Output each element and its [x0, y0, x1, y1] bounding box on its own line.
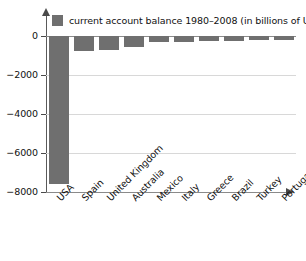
gridline--6000: [46, 153, 296, 154]
y-tick--6000: [41, 153, 46, 154]
legend-swatch-icon: [52, 15, 63, 26]
legend: current account balance 1980–2008 (in bi…: [52, 15, 306, 26]
bar-usa: [49, 36, 69, 184]
y-axis-arrow-icon: [42, 8, 50, 16]
bar-mexico: [149, 36, 169, 42]
bar-united-kingdom: [99, 36, 119, 50]
gridline--2000: [46, 75, 296, 76]
bar-spain: [74, 36, 94, 51]
y-tick-label--8000: −8000: [6, 187, 38, 197]
bar-portugal: [274, 36, 294, 40]
y-tick-label--2000: −2000: [6, 70, 38, 80]
bar-turkey: [249, 36, 269, 40]
y-tick-label-0: 0: [32, 31, 38, 41]
bar-brazil: [224, 36, 244, 41]
y-tick-0: [41, 36, 46, 37]
plot-area: [46, 36, 296, 192]
y-tick--4000: [41, 114, 46, 115]
bar-australia: [124, 36, 144, 47]
x-axis-line: [46, 192, 288, 193]
bar-greece: [199, 36, 219, 41]
y-tick--2000: [41, 75, 46, 76]
legend-label: current account balance 1980–2008 (in bi…: [69, 16, 306, 26]
bar-chart: 0 −2000 −4000 −6000 −8000 current accoun…: [0, 0, 306, 261]
y-tick--8000: [41, 192, 46, 193]
gridline--4000: [46, 114, 296, 115]
y-tick-label--6000: −6000: [6, 148, 38, 158]
y-tick-label--4000: −4000: [6, 109, 38, 119]
x-axis-arrow-icon: [286, 188, 294, 196]
bar-italy: [174, 36, 194, 42]
